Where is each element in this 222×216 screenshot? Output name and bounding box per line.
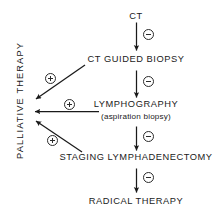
node-lymphography-subtitle: (aspiration biopsy): [101, 112, 171, 121]
plus-sign-icon-lymphography-to-palliative-therapy: [64, 99, 75, 110]
edge-staging-lymphadenectomy-to-palliative-therapy: [36, 121, 82, 152]
node-ct: CT: [129, 12, 143, 22]
flowchart-figure: CT CT GUIDED BIOPSY LYMPHOGRAPHY (aspira…: [0, 0, 222, 216]
node-radical-therapy: RADICAL THERAPY: [89, 197, 184, 207]
minus-sign-icon-lymphography-to-staging-lymphadenectomy: [143, 131, 154, 142]
node-staging-lymphadenectomy: STAGING LYMPHADENECTOMY: [59, 153, 212, 163]
node-ct-guided-biopsy: CT GUIDED BIOPSY: [88, 55, 185, 65]
plus-sign-icon-ct-guided-biopsy-to-palliative-therapy: [45, 73, 56, 84]
node-palliative-therapy: PALLIATIVE THERAPY: [15, 42, 25, 159]
edge-ct-guided-biopsy-to-palliative-therapy: [36, 65, 85, 99]
minus-sign-icon-ct-to-ct-guided-biopsy: [143, 29, 154, 40]
plus-sign-icon-staging-lymphadenectomy-to-palliative-therapy: [47, 135, 58, 146]
node-lymphography: LYMPHOGRAPHY: [94, 100, 178, 110]
minus-sign-icon-staging-lymphadenectomy-to-radical-therapy: [143, 172, 154, 183]
minus-sign-icon-ct-guided-biopsy-to-lymphography: [143, 76, 154, 87]
